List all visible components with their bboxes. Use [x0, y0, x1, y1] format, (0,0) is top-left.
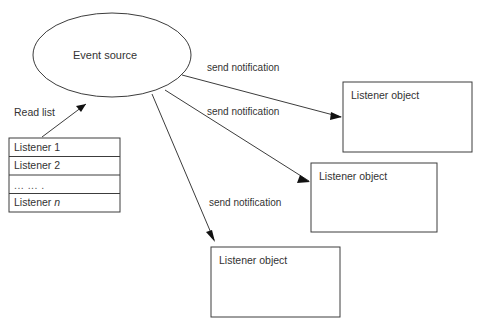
listener-object-label-2: Listener object [319, 170, 387, 182]
read-list-label: Read list [14, 106, 55, 118]
notification-arrowhead-1 [330, 112, 342, 120]
listener-list-row-4[interactable]: Listener n [14, 196, 60, 208]
notification-connector-2 [165, 90, 309, 181]
listener-list-row-2[interactable]: Listener 2 [14, 159, 60, 171]
notification-connector-3 [152, 94, 214, 240]
listener-object-label-3: Listener object [219, 254, 287, 266]
event-source-label: Event source [73, 49, 137, 61]
notification-label-2: send notification [207, 106, 279, 118]
notification-label-3: send notification [209, 197, 281, 209]
diagram-canvas: Event source Read list Listener 1 Listen… [0, 0, 488, 329]
notification-arrowhead-3 [206, 230, 215, 242]
notification-label-1: send notification [207, 62, 279, 74]
notification-arrowhead-2 [297, 175, 310, 183]
listener-object-label-1: Listener object [351, 89, 419, 101]
listener-list-row-4-text: Listener n [14, 196, 60, 208]
listener-list-row-1[interactable]: Listener 1 [14, 141, 60, 153]
listener-list-row-3[interactable]: ... ... . [14, 179, 45, 191]
